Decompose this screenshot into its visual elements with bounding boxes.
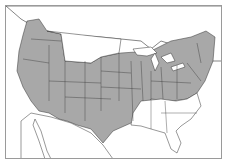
map-frame [5, 5, 222, 159]
southeast-unshaded [131, 93, 201, 153]
range-map [6, 6, 222, 159]
